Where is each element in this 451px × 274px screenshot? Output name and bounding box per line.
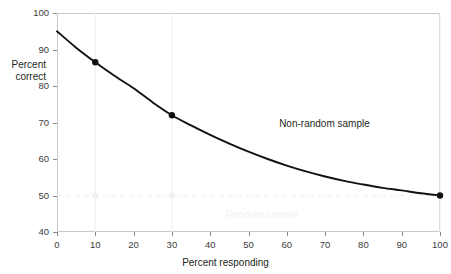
x-tick-label: 70: [320, 240, 331, 250]
y-axis-title: Percent correct: [0, 59, 46, 82]
x-tick-label: 50: [243, 240, 254, 250]
x-axis-title: Percent responding: [0, 257, 451, 268]
y-axis-title-line-2: correct: [0, 71, 46, 83]
x-tick-mark: [95, 232, 96, 236]
y-tick-label: 80: [21, 81, 49, 91]
plot-area-frame: [57, 13, 440, 232]
x-tick-mark: [249, 232, 250, 236]
y-tick-mark: [53, 196, 57, 197]
x-tick-label: 100: [432, 240, 448, 250]
x-tick-label: 40: [205, 240, 216, 250]
chart-figure: 0102030405060708090100405060708090100 Pe…: [0, 0, 451, 274]
annotation-non-random-sample: Non-random sample: [279, 119, 370, 129]
y-tick-mark: [53, 86, 57, 87]
y-tick-label: 70: [21, 118, 49, 128]
y-axis-title-line-1: Percent: [0, 59, 46, 71]
x-tick-mark: [363, 232, 364, 236]
x-tick-label: 60: [282, 240, 293, 250]
x-tick-mark: [172, 232, 173, 236]
y-tick-mark: [53, 123, 57, 124]
y-tick-mark: [53, 159, 57, 160]
x-tick-label: 80: [358, 240, 369, 250]
x-tick-mark: [210, 232, 211, 236]
annotation-random-sample: Random sample: [226, 210, 299, 220]
y-tick-label: 50: [21, 191, 49, 201]
x-tick-mark: [325, 232, 326, 236]
x-tick-label: 20: [128, 240, 139, 250]
y-tick-label: 60: [21, 154, 49, 164]
y-tick-mark: [53, 232, 57, 233]
x-tick-mark: [402, 232, 403, 236]
x-tick-mark: [134, 232, 135, 236]
y-tick-mark: [53, 50, 57, 51]
x-tick-label: 10: [90, 240, 101, 250]
x-tick-mark: [287, 232, 288, 236]
x-tick-mark: [440, 232, 441, 236]
x-tick-label: 0: [54, 240, 59, 250]
y-tick-mark: [53, 13, 57, 14]
y-tick-label: 100: [21, 8, 49, 18]
x-tick-label: 30: [167, 240, 178, 250]
y-tick-label: 90: [21, 45, 49, 55]
y-tick-label: 40: [21, 227, 49, 237]
x-tick-mark: [57, 232, 58, 236]
x-tick-label: 90: [396, 240, 407, 250]
